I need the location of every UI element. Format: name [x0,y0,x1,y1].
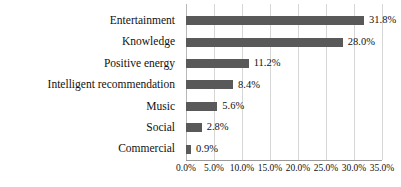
category-label: Intelligent recommendation [48,79,175,91]
category-tick: Intelligent recommendation [0,74,181,95]
bar [186,59,249,68]
horizontal-bar-chart: Entertainment Knowledge Positive energy … [0,0,401,187]
bar [186,16,364,25]
x-tick-label: 10.0% [230,164,255,174]
bar-value-label: 5.6% [222,101,244,112]
category-tick: Entertainment [0,10,181,31]
bar-row: 8.4% [186,74,382,95]
bar-row: 31.8% [186,10,382,31]
category-label: Positive energy [104,58,175,70]
plot-area: 31.8% 28.0% 11.2% 8.4% 5.6% 2.8% [186,4,382,160]
bar-row: 5.6% [186,96,382,117]
category-tick: Commercial [0,138,181,159]
bar-row: 2.8% [186,117,382,138]
bar-row: 0.9% [186,138,382,159]
category-label: Music [146,101,175,113]
bar [186,123,202,132]
bar-value-label: 31.8% [369,15,396,26]
bar [186,80,233,89]
bar-value-label: 28.0% [348,37,375,48]
category-label: Social [146,122,175,134]
category-tick: Music [0,96,181,117]
bar-row: 28.0% [186,31,382,52]
x-axis-tick-labels: 0.0%5.0%10.0%15.0%20.0%25.0%30.0%35.0% [186,164,382,184]
category-tick: Positive energy [0,53,181,74]
x-tick-label: 15.0% [258,164,283,174]
x-axis-line [186,160,382,161]
bar [186,102,217,111]
category-tick: Knowledge [0,31,181,52]
category-label: Knowledge [122,36,175,48]
category-tick: Social [0,117,181,138]
x-tick-label: 30.0% [342,164,367,174]
x-tick-label: 25.0% [314,164,339,174]
category-label: Commercial [118,143,175,155]
x-tick-label: 20.0% [286,164,311,174]
bar-value-label: 0.9% [196,144,218,155]
gridline [382,4,383,160]
bar [186,145,191,154]
bar-value-label: 2.8% [207,122,229,133]
x-tick-label: 35.0% [370,164,395,174]
bar-value-label: 11.2% [254,58,281,69]
x-tick-label: 0.0% [176,164,196,174]
bar-row: 11.2% [186,53,382,74]
category-axis: Entertainment Knowledge Positive energy … [0,10,181,160]
bar [186,38,343,47]
category-label: Entertainment [110,15,175,27]
bars-layer: 31.8% 28.0% 11.2% 8.4% 5.6% 2.8% [186,10,382,160]
x-tick-label: 5.0% [204,164,224,174]
bar-value-label: 8.4% [238,80,260,91]
